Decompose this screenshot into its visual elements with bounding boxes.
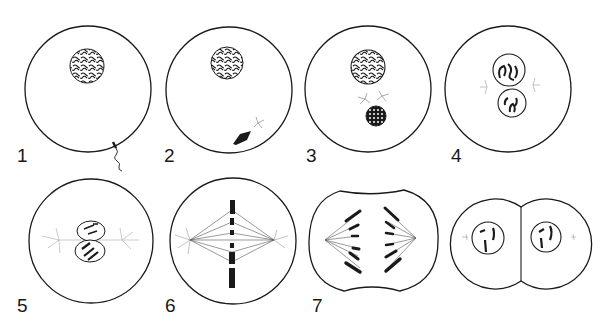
centrosome-asters: [358, 91, 389, 104]
panel-1: [25, 26, 151, 171]
spindle-left: [325, 212, 360, 268]
centrosome-aster: [254, 117, 264, 128]
panel-6: [170, 178, 296, 304]
sperm-pronucleus: [366, 106, 386, 126]
panel-label-4: 4: [451, 146, 462, 165]
panel-2: [166, 27, 292, 153]
egg-nucleus: [70, 49, 104, 83]
sperm-icon: [113, 142, 122, 171]
aster-left: [480, 80, 487, 94]
chromosomes-left: [346, 211, 360, 272]
panel-label-1: 1: [17, 146, 28, 165]
daughter-nucleus-left: [472, 222, 504, 254]
panel-5: [29, 179, 153, 303]
panel-label-2: 2: [164, 146, 175, 165]
aster-right: [533, 78, 540, 92]
panel-4: [445, 26, 571, 152]
egg-nucleus: [211, 47, 243, 79]
panel-label-7: 7: [312, 296, 323, 315]
egg-cell-membrane: [25, 26, 151, 152]
metaphase-plate-chromosomes: [229, 200, 235, 288]
male-pronucleus: [498, 89, 526, 117]
panel-3: [305, 26, 431, 152]
panel-label-6: 6: [165, 296, 176, 315]
panel-label-5: 5: [17, 296, 28, 315]
egg-cell-membrane: [305, 26, 431, 152]
egg-cell-membrane: [166, 27, 292, 153]
daughter-nucleus-right: [531, 222, 561, 252]
chromosomes-right: [385, 208, 400, 271]
spindle-right: [386, 210, 416, 270]
egg-cell-membrane: [445, 26, 571, 152]
pronucleus-upper: [77, 221, 105, 241]
sperm-head: [233, 131, 251, 145]
diagram-canvas: [0, 0, 610, 324]
constricting-cell-membrane: [309, 190, 438, 291]
egg-pronucleus: [351, 50, 385, 84]
female-pronucleus: [493, 54, 525, 86]
panel-label-3: 3: [306, 146, 317, 165]
panel-8-daughter-cells: [450, 199, 591, 289]
panel-7: [309, 190, 438, 291]
